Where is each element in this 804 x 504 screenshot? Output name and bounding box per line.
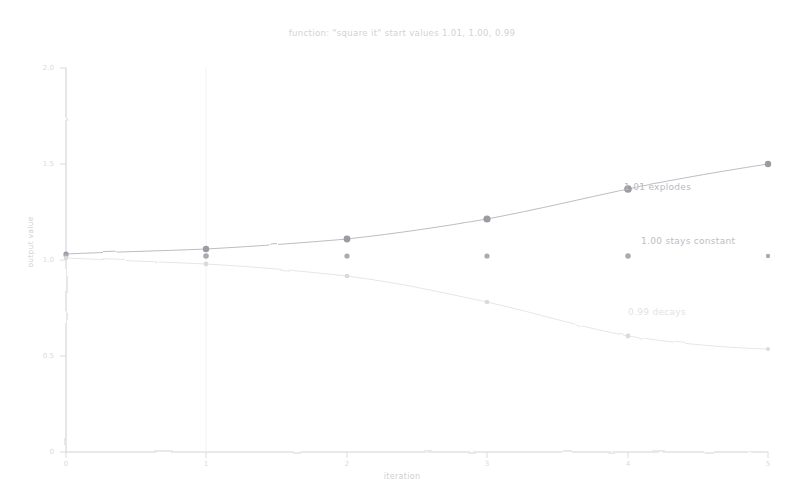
chart-figure: function: "square it" start values 1.01,… (0, 0, 804, 504)
x-tick-label-2: 2 (334, 460, 360, 468)
x-tick-label-0: 0 (53, 460, 79, 468)
y-tick-label-1: 0.5 (28, 352, 54, 360)
y-axis-label: output value (26, 202, 35, 282)
annotation-explodes: 1.01 explodes (624, 182, 691, 192)
x-tick-marks (66, 452, 768, 458)
chart-plot-area (0, 0, 804, 504)
y-tick-label-0: 0 (28, 448, 54, 456)
x-tick-label-1: 1 (193, 460, 219, 468)
x-tick-label-5: 5 (755, 460, 781, 468)
series-decay (66, 258, 768, 349)
chart-title: function: "square it" start values 1.01,… (0, 28, 804, 38)
markers-decay (64, 256, 770, 351)
y-tick-label-3: 1.5 (28, 160, 54, 168)
x-tick-label-3: 3 (474, 460, 500, 468)
x-axis-label: iteration (0, 472, 804, 481)
y-tick-label-2: 1.0 (28, 256, 54, 264)
x-tick-label-4: 4 (615, 460, 641, 468)
annotation-constant: 1.00 stays constant (641, 236, 735, 246)
y-tick-label-4: 2.0 (28, 64, 54, 72)
annotation-decays: 0.99 decays (628, 307, 686, 317)
